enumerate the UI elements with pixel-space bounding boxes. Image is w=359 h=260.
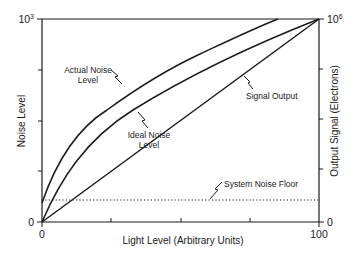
y-left-axis-title: Noise Level: [16, 95, 27, 147]
ideal-noise-label: Ideal Noise: [128, 130, 171, 140]
noise-floor-label: System Noise Floor: [224, 179, 298, 189]
y-right-max-label: 106: [327, 13, 343, 25]
x-max-label: 100: [310, 228, 328, 240]
y-left-max-label: 103: [18, 13, 34, 25]
actual-noise-curve: [42, 19, 278, 203]
noise-floor-arrow: [210, 182, 222, 199]
actual-noise-label: Actual Noise: [64, 65, 112, 75]
y-left-min-label: 0: [28, 216, 34, 228]
signal-output-line: [42, 19, 319, 222]
actual-noise-arrow: [111, 70, 122, 84]
actual-noise-label-2: Level: [78, 75, 98, 85]
y-right-ticks: [319, 19, 324, 222]
y-right-axis-title: Output Signal (Electrons): [329, 65, 340, 177]
ideal-noise-label-2: Level: [139, 140, 159, 150]
y-right-min-label: 0: [327, 216, 333, 228]
noise-vs-light-chart: 103 0 106 0 0 100 Light Level (Arbitrary…: [0, 0, 359, 260]
y-left-ticks: [37, 19, 42, 222]
x-min-label: 0: [39, 228, 45, 240]
signal-output-arrow: [244, 76, 253, 89]
x-axis-title: Light Level (Arbitrary Units): [122, 235, 243, 246]
ideal-noise-arrow: [138, 112, 148, 128]
signal-output-label: Signal Output: [246, 91, 298, 101]
